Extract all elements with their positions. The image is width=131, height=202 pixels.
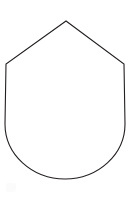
image-canvas bbox=[0, 0, 131, 202]
shield-outline-path bbox=[5, 21, 125, 179]
shield-figure bbox=[0, 0, 131, 202]
